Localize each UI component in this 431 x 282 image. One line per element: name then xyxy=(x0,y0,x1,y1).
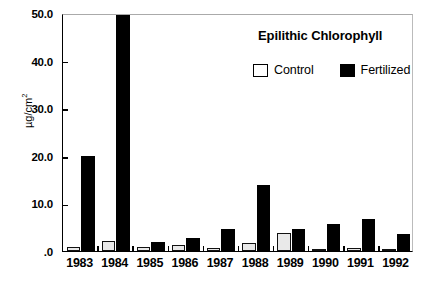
x-axis-tick-label: 1988 xyxy=(242,256,269,270)
bars-layer xyxy=(63,15,412,251)
x-axis-tick-mark xyxy=(378,246,380,251)
legend-swatch-fertilized-icon xyxy=(340,64,355,77)
bar-fertilized-1986 xyxy=(186,238,200,251)
chart-legend: Control Fertilized xyxy=(253,63,410,77)
bar-control-1984 xyxy=(102,241,116,251)
legend-entry-fertilized: Fertilized xyxy=(340,63,411,77)
y-axis-tick-label: 40.0 xyxy=(31,56,53,68)
y-axis-tick-label: 50.0 xyxy=(31,8,53,20)
bar-fertilized-1985 xyxy=(151,242,165,251)
chart-title: Epilithic Chlorophyll xyxy=(258,28,382,43)
y-axis-tick-mark xyxy=(63,109,68,111)
bar-fertilized-1989 xyxy=(292,229,306,251)
bar-fertilized-1984 xyxy=(116,14,130,251)
bar-control-1985 xyxy=(137,247,151,251)
legend-label-control: Control xyxy=(274,63,314,77)
x-axis-tick-labels: 1983198419851986198719881989199019911992 xyxy=(62,256,413,280)
y-axis-tick-label: 30.0 xyxy=(31,103,53,115)
x-axis-tick-label: 1991 xyxy=(347,256,374,270)
legend-entry-control: Control xyxy=(253,63,314,77)
x-axis-tick-mark xyxy=(132,246,134,251)
y-axis-tick-mark xyxy=(63,62,68,64)
x-axis-tick-mark xyxy=(308,246,310,251)
bar-control-1986 xyxy=(172,245,186,251)
chart-figure: µg/cm2 .010.020.030.040.050.0 1983198419… xyxy=(0,0,431,282)
legend-swatch-control-icon xyxy=(253,64,268,77)
x-axis-tick-label: 1985 xyxy=(136,256,163,270)
bar-fertilized-1992 xyxy=(397,234,411,251)
bar-control-1990 xyxy=(312,249,326,251)
bar-fertilized-1991 xyxy=(362,219,376,251)
x-axis-tick-mark xyxy=(203,246,205,251)
bar-control-1991 xyxy=(347,248,361,251)
x-axis-tick-mark xyxy=(238,246,240,251)
y-axis-tick-label: 10.0 xyxy=(31,198,53,210)
x-axis-tick-mark xyxy=(343,246,345,251)
y-axis-tick-mark xyxy=(63,157,68,159)
y-axis-tick-mark xyxy=(63,205,68,207)
x-axis-tick-label: 1984 xyxy=(101,256,128,270)
x-axis-tick-label: 1989 xyxy=(277,256,304,270)
bar-fertilized-1990 xyxy=(327,224,341,251)
bar-fertilized-1983 xyxy=(81,156,95,251)
bar-control-1989 xyxy=(277,233,291,251)
x-axis-tick-label: 1990 xyxy=(312,256,339,270)
bar-control-1987 xyxy=(207,248,221,251)
x-axis-tick-mark xyxy=(168,246,170,251)
y-axis-tick-label: 20.0 xyxy=(31,151,53,163)
plot-area xyxy=(62,14,413,252)
bar-fertilized-1987 xyxy=(221,229,235,251)
bar-fertilized-1988 xyxy=(257,185,271,251)
x-axis-tick-mark xyxy=(273,246,275,251)
bar-control-1983 xyxy=(67,247,81,251)
x-axis-tick-label: 1987 xyxy=(207,256,234,270)
y-axis-tick-labels: .010.020.030.040.050.0 xyxy=(0,0,58,282)
bar-control-1988 xyxy=(242,243,256,251)
y-axis-tick-label: .0 xyxy=(44,246,53,258)
x-axis-tick-label: 1986 xyxy=(172,256,199,270)
x-axis-tick-label: 1992 xyxy=(382,256,409,270)
x-axis-tick-mark xyxy=(97,246,99,251)
bar-control-1992 xyxy=(382,249,396,251)
x-axis-tick-label: 1983 xyxy=(66,256,93,270)
legend-label-fertilized: Fertilized xyxy=(361,63,411,77)
